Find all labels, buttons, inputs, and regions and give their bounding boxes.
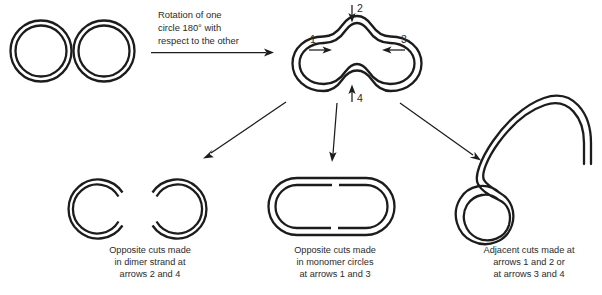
rotation-label-line-3: respect to the other <box>158 35 239 46</box>
outcome1-caption-line-2: in dimer strand at <box>115 257 186 267</box>
cut-arrow-4: 4 <box>348 85 363 105</box>
rotation-label-line-2: circle 180° with <box>158 22 221 33</box>
outcome2-inner-strand-upper-left <box>276 185 333 228</box>
rotation-step: Rotation of one circle 180° with respect… <box>151 9 274 56</box>
cut-arrow-3-label: 3 <box>401 33 407 45</box>
outcome-arrow-center <box>329 103 337 162</box>
cut-arrow-2: 2 <box>348 2 363 23</box>
outcome1-caption-line-3: arrows 2 and 4 <box>120 269 181 279</box>
cut-arrow-4-label: 4 <box>357 92 363 104</box>
outcome2-caption-line-2: in monomer circles <box>296 257 373 267</box>
cut-arrow-1-label: 1 <box>310 33 316 45</box>
outcome1-right-outer-strand <box>153 179 207 238</box>
lariat-inner-strand <box>464 96 591 241</box>
outcome1-caption-line-1: Opposite cuts made <box>109 245 191 255</box>
diagram-canvas: Rotation of one circle 180° with respect… <box>0 0 602 295</box>
outcome2-caption-line-3: at arrows 1 and 3 <box>300 269 371 279</box>
left-circle-inner-strand <box>16 26 67 77</box>
outcome-arrows <box>203 102 481 162</box>
dimer-figure-eight: 2 4 1 3 <box>293 2 422 104</box>
cut-arrow-2-label: 2 <box>357 2 363 14</box>
outcome2-inner-strand-right <box>338 185 388 228</box>
right-circle-inner-strand <box>79 26 130 77</box>
rotation-label-line-1: Rotation of one <box>158 9 222 20</box>
outcome1-left-inner-strand <box>73 185 119 234</box>
outcome-dimer-strand-cuts: Opposite cuts made in dimer strand at ar… <box>69 179 207 279</box>
outcome-adjacent-cuts: Adjacent cuts made at arrows 1 and 2 or … <box>456 96 591 279</box>
outcome1-left-outer-strand <box>69 179 123 238</box>
right-circle-outer-strand <box>74 21 135 82</box>
lariat-outer-strand <box>456 103 584 244</box>
outcome-arrow-right <box>400 103 481 161</box>
outcome-arrow-left <box>203 102 286 159</box>
outcome3-caption-line-2: arrows 1 and 2 or <box>493 257 565 267</box>
outcome-arrow-right-shaft <box>400 103 473 155</box>
diagram-figure: Rotation of one circle 180° with respect… <box>0 0 602 295</box>
dimer-two-circles-start <box>11 21 135 82</box>
left-circle-outer-strand <box>11 21 72 82</box>
outcome2-caption-line-1: Opposite cuts made <box>294 245 376 255</box>
outcome-arrow-center-shaft <box>333 103 337 154</box>
outcome-monomer-circle-cuts: Opposite cuts made in monomer circles at… <box>269 178 395 279</box>
dumbbell-outer-strand <box>293 16 422 91</box>
outcome3-caption-line-1: Adjacent cuts made at <box>484 245 575 255</box>
outcome-arrow-left-head <box>203 150 214 159</box>
outcome-arrow-left-shaft <box>211 102 286 153</box>
dumbbell-inner-strand <box>300 23 415 84</box>
outcome3-caption-line-3: at arrows 3 and 4 <box>494 269 565 279</box>
outcome1-right-inner-strand <box>157 185 203 234</box>
outcome-arrow-right-head <box>470 152 481 161</box>
